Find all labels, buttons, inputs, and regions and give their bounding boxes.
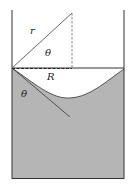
- liquid-region: [12, 68, 124, 178]
- meniscus-diagram: r θ R θ: [0, 0, 131, 192]
- label-theta-top: θ: [45, 47, 51, 58]
- label-r: r: [30, 25, 36, 36]
- label-R: R: [46, 71, 55, 82]
- label-theta-contact: θ: [21, 88, 27, 99]
- radius-r-line: [12, 13, 72, 68]
